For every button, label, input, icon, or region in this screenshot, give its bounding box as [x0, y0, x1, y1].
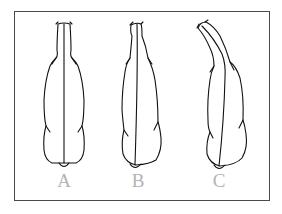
shape-c: [197, 20, 247, 169]
shape-b: [122, 22, 161, 168]
label-a: A: [49, 170, 79, 192]
shape-a: [44, 22, 85, 167]
label-b: B: [123, 170, 153, 192]
label-c: C: [204, 170, 234, 192]
